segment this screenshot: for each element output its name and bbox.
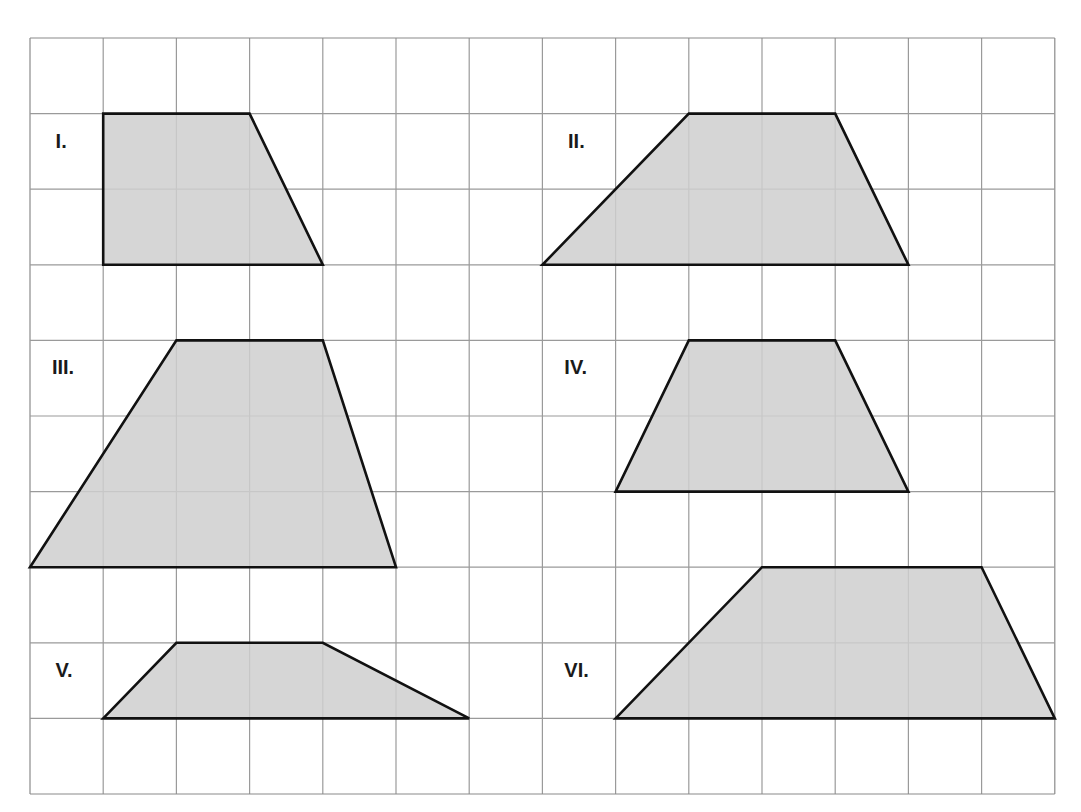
shape-label: II. xyxy=(568,130,585,152)
trapezoid-4 xyxy=(616,340,909,491)
shape-label: III. xyxy=(52,356,74,378)
shape-label: IV. xyxy=(564,356,587,378)
grid-canvas: I.II.III.IV.V.VI. xyxy=(0,0,1081,812)
trapezoid-5 xyxy=(103,643,469,719)
trapezoid-grid-figure: I.II.III.IV.V.VI. xyxy=(0,0,1081,812)
shape-label: VI. xyxy=(564,659,588,681)
shape-label: I. xyxy=(56,130,67,152)
shape-label: V. xyxy=(56,659,73,681)
trapezoid-3 xyxy=(30,340,396,567)
